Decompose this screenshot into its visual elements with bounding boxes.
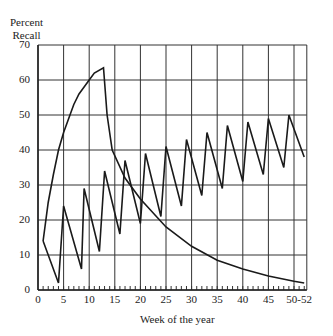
plot-area xyxy=(0,0,333,336)
x-axis-label: Week of the year xyxy=(140,313,215,325)
series-line-1 xyxy=(43,115,304,283)
